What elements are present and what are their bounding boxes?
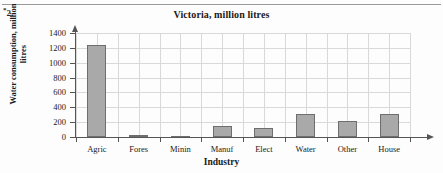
y-axis-tick-label: 400: [22, 103, 66, 111]
x-axis-tick-label: Manuf: [201, 144, 243, 154]
y-axis-tick-mark: [70, 78, 75, 79]
y-axis-tick-mark: [70, 92, 75, 93]
chart-title: Victoria, million litres: [0, 9, 443, 20]
y-axis-tick-label: 1000: [22, 59, 66, 67]
bar: [338, 121, 357, 137]
x-axis-tick-mark: [285, 138, 286, 142]
x-axis-tick-mark: [368, 138, 369, 142]
bar: [213, 126, 232, 137]
grid-line-vertical: [180, 33, 181, 137]
grid-layer: [76, 33, 410, 137]
grid-line-vertical: [201, 33, 202, 137]
y-axis-line: [75, 31, 76, 138]
chart-page: *2. Victoria, million litres Water consu…: [0, 0, 443, 173]
y-axis-tick-mark: [70, 107, 75, 108]
x-axis-tick-label: Other: [327, 144, 369, 154]
y-axis-tick-label: 0: [22, 133, 66, 141]
grid-line-vertical: [243, 33, 244, 137]
x-axis-tick-mark: [160, 138, 161, 142]
x-axis-tick-label: Water: [285, 144, 327, 154]
x-axis-tick-mark: [243, 138, 244, 142]
y-axis-tick-mark: [70, 48, 75, 49]
x-axis-tick-mark: [201, 138, 202, 142]
page-top-rule: [2, 4, 441, 5]
grid-line-vertical: [76, 33, 77, 137]
y-axis-tick-mark: [70, 63, 75, 64]
grid-line-vertical: [139, 33, 140, 137]
y-axis-tick-mark: [70, 33, 75, 34]
bar: [380, 114, 399, 137]
y-axis-tick-label: 1200: [22, 44, 66, 52]
y-axis-tick-label: 200: [22, 118, 66, 126]
x-axis-tick-label: Minin: [160, 144, 202, 154]
y-axis-arrow-icon: [72, 25, 78, 32]
bar: [87, 45, 106, 137]
grid-line-vertical: [368, 33, 369, 137]
y-axis-tick-label: 800: [22, 74, 66, 82]
x-axis-tick-mark: [76, 138, 77, 142]
x-axis-arrow-icon: [427, 134, 434, 140]
x-axis-tick-mark: [410, 138, 411, 142]
x-axis-title: Industry: [0, 157, 443, 167]
bar: [254, 128, 273, 137]
x-axis-tick-label: Agric: [76, 144, 118, 154]
grid-line-vertical: [327, 33, 328, 137]
x-axis-tick-label: Fores: [118, 144, 160, 154]
y-axis-tick-mark: [70, 137, 75, 138]
x-axis-tick-label: House: [368, 144, 410, 154]
x-axis-tick-mark: [327, 138, 328, 142]
x-axis-tick-label: Elect: [243, 144, 285, 154]
grid-line-vertical: [222, 33, 223, 137]
bar: [296, 114, 315, 137]
x-axis-tick-mark: [118, 138, 119, 142]
grid-line-vertical: [410, 33, 411, 137]
y-axis-tick-mark: [70, 122, 75, 123]
grid-line-vertical: [160, 33, 161, 137]
y-axis-tick-label: 600: [22, 88, 66, 96]
x-axis-line: [75, 137, 427, 138]
grid-line-vertical: [118, 33, 119, 137]
grid-line-vertical: [264, 33, 265, 137]
plot-area: [76, 33, 410, 137]
grid-line-vertical: [285, 33, 286, 137]
y-axis-tick-label: 1400: [22, 29, 66, 37]
